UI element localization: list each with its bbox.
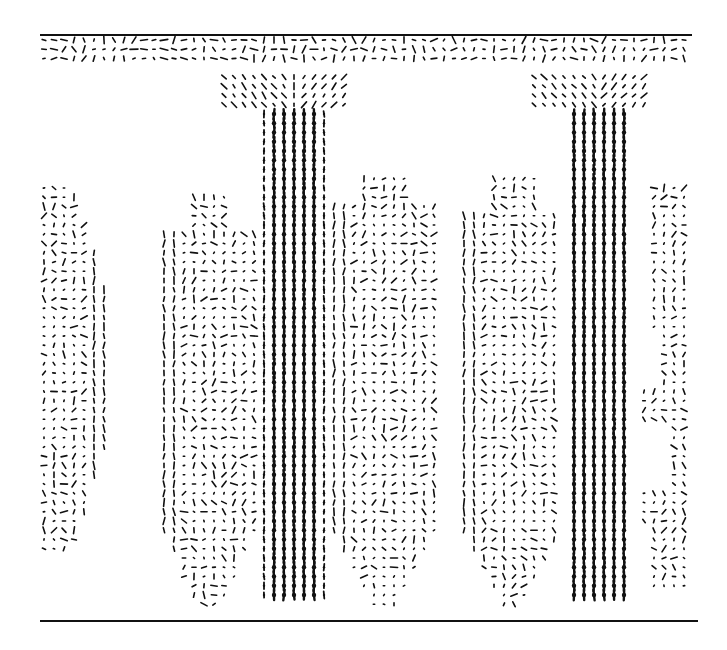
- vector-field-plot: [0, 0, 727, 650]
- velocity-vectors: [41, 36, 687, 607]
- boundary-lines: [40, 35, 698, 621]
